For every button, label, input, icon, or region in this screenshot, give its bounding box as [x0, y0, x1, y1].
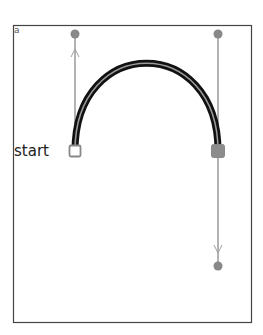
bezier-curve-inner	[75, 63, 218, 151]
end-control-point-up[interactable]	[214, 30, 223, 39]
start-label: start	[14, 142, 49, 160]
corner-label: a	[14, 25, 20, 35]
start-anchor[interactable]	[70, 146, 81, 157]
start-control-point[interactable]	[71, 30, 80, 39]
end-control-point-down[interactable]	[214, 262, 223, 271]
bezier-curve-outer[interactable]	[75, 63, 218, 151]
end-anchor[interactable]	[212, 145, 225, 158]
diagram-canvas	[0, 0, 263, 335]
diagram-frame	[14, 26, 252, 323]
